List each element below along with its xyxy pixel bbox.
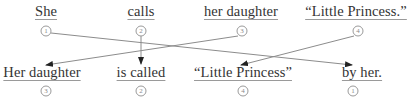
source-word-calls: calls [127, 3, 154, 20]
order-marker-4: 4 [238, 86, 249, 97]
order-marker-4: 4 [353, 26, 364, 37]
target-word-is-called: is called [117, 64, 166, 81]
source-word-little-princess: “Little Princess.” [305, 3, 407, 20]
target-word-little-princess: “Little Princess” [194, 64, 292, 81]
order-marker-3: 3 [41, 86, 52, 97]
source-word-her-daughter: her daughter [204, 3, 278, 20]
target-word-by-her: by her. [342, 64, 382, 81]
source-word-she: She [35, 3, 57, 20]
order-marker-2: 2 [136, 86, 147, 97]
order-marker-1: 1 [41, 26, 52, 37]
order-marker-2: 2 [136, 26, 147, 37]
arrow-4-to-little-princess [241, 36, 354, 65]
arrow-1-to-by-her [51, 33, 352, 65]
target-word-her-daughter: Her daughter [3, 64, 80, 81]
arrow-3-to-her-daughter [46, 36, 238, 65]
order-marker-3: 3 [237, 26, 248, 37]
order-marker-1: 1 [348, 86, 359, 97]
